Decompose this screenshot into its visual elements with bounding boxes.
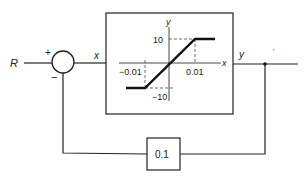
signal-y-label: y	[238, 49, 245, 60]
plus-sign: +	[45, 47, 51, 58]
input-label: R	[10, 57, 18, 69]
tick-pos-x: 0.01	[186, 67, 204, 77]
inner-y-axis-label: y	[165, 17, 171, 27]
block-diagram: R + − x x y 10 −10 −0.01 0.01 y ' 0.1	[0, 0, 305, 179]
tick-neg-y: −10	[152, 92, 167, 102]
stray-mark: '	[273, 48, 274, 55]
inner-x-axis-label: x	[221, 58, 227, 68]
tick-neg-x: −0.01	[119, 67, 142, 77]
feedback-gain-label: 0.1	[155, 149, 169, 160]
tick-pos-y: 10	[153, 35, 163, 45]
summing-junction	[52, 51, 74, 73]
minus-sign: −	[51, 71, 57, 83]
signal-x-label: x	[93, 50, 100, 61]
